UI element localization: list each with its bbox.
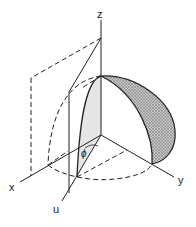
x-axis (20, 135, 101, 182)
angle-label: ϕ (81, 148, 87, 159)
spherical-wedge-diagram: z x y u ϕ (0, 0, 196, 227)
u-label: u (53, 203, 59, 215)
z-label: z (97, 8, 103, 20)
y-label: y (178, 174, 184, 186)
shell-surface (101, 76, 175, 164)
x-label: x (9, 181, 15, 193)
